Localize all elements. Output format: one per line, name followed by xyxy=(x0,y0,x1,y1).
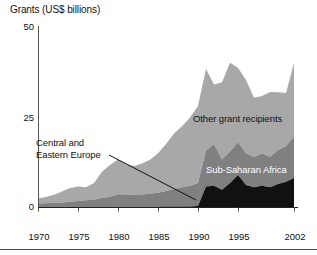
x-tick-label-1980: 1980 xyxy=(102,231,136,242)
cee-label-line-1: Central and xyxy=(36,137,84,148)
bottom-divider xyxy=(0,249,317,250)
chart-figure: Grants (US$ billions) 50 25 0 1970 1975 xyxy=(0,0,317,255)
y-tick-label-25: 25 xyxy=(12,112,34,123)
x-tick-label-1970: 1970 xyxy=(22,231,56,242)
series-label-central-eastern-europe: Central and Eastern Europe xyxy=(36,137,101,160)
x-tick-label-1985: 1985 xyxy=(142,231,176,242)
series-label-sub-saharan-africa: Sub-Saharan Africa xyxy=(206,164,287,175)
x-tick-label-1990: 1990 xyxy=(182,231,216,242)
cee-label-line-2: Eastern Europe xyxy=(36,149,101,160)
area-chart-plot xyxy=(0,0,317,255)
y-tick-label-0: 0 xyxy=(12,201,34,212)
series-label-other-grant-recipients: Other grant recipients xyxy=(193,113,282,124)
x-tick-label-1975: 1975 xyxy=(62,231,96,242)
x-axis-ticks xyxy=(39,208,295,212)
x-tick-label-2002: 2002 xyxy=(278,231,312,242)
x-tick-label-1995: 1995 xyxy=(222,231,256,242)
y-tick-label-50: 50 xyxy=(12,21,34,32)
